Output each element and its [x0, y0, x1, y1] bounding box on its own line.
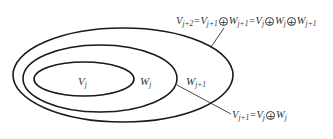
label-wj-symbol: W — [140, 75, 149, 87]
eq-top-sub: j+1 — [207, 19, 218, 28]
eq-top-sub: j+2 — [182, 19, 193, 28]
eq-top-sub: j — [262, 19, 264, 28]
eq-top-term: W — [275, 15, 284, 26]
outer-ellipse-vj2 — [13, 28, 233, 122]
eq-top-sub: j — [284, 19, 286, 28]
eq-top-term: =V — [248, 15, 262, 26]
label-wj1: Wj+1 — [186, 76, 206, 89]
bottom-leader-line — [177, 85, 231, 114]
label-wj1-sub: j+1 — [195, 80, 206, 89]
label-vj: Vj — [78, 76, 87, 89]
eq-bottom-term: W — [276, 109, 285, 120]
equation-top: Vj+2=Vj+1+Wj+1=Vj+Wj+Wj+1 — [176, 16, 316, 28]
direct-sum-icon: + — [219, 17, 228, 26]
direct-sum-icon: + — [265, 17, 274, 26]
direct-sum-icon: + — [266, 111, 275, 120]
label-wj1-symbol: W — [186, 75, 195, 87]
eq-top-sub: j+1 — [237, 19, 248, 28]
label-vj-symbol: V — [78, 75, 85, 87]
eq-top-term: W — [297, 15, 306, 26]
direct-sum-icon: + — [287, 17, 296, 26]
subspace-diagram: Vj Wj Wj+1 Vj+2=Vj+1+Wj+1=Vj+Wj+Wj+1 Vj+… — [0, 0, 333, 139]
eq-bottom-sub: j — [285, 113, 287, 122]
top-leader-line — [211, 28, 224, 47]
middle-ellipse-vj1 — [23, 45, 177, 112]
eq-bottom-term: =V — [249, 109, 263, 120]
eq-top-sub: j+1 — [306, 19, 317, 28]
label-vj-sub: j — [85, 80, 87, 89]
label-wj-sub: j — [149, 80, 151, 89]
equation-bottom: Vj+1=Vj+Wj — [232, 110, 287, 122]
eq-bottom-sub: j+1 — [238, 113, 249, 122]
eq-bottom-sub: j — [263, 113, 265, 122]
eq-top-term: =V — [193, 15, 207, 26]
label-wj: Wj — [140, 76, 151, 89]
